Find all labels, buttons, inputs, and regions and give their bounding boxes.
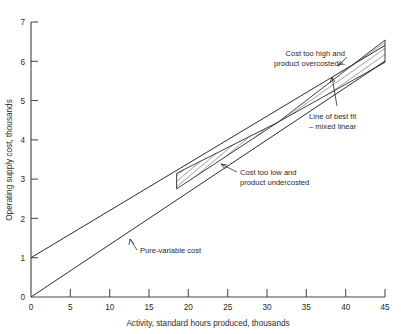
annotation-cost-too-low: Cost too low and product undercosted bbox=[240, 168, 309, 187]
x-tick-45: 45 bbox=[380, 303, 390, 312]
y-tick-4: 4 bbox=[20, 136, 25, 145]
annotation-cost-too-low-line1: Cost too low and bbox=[240, 168, 297, 177]
y-tick-5: 5 bbox=[20, 97, 25, 106]
annotation-best-fit-line2: – mixed linear bbox=[309, 122, 357, 131]
annotation-cost-too-high-line2: product overcosted – bbox=[274, 59, 346, 68]
leader-pure-variable-cost bbox=[129, 239, 137, 250]
x-axis bbox=[31, 289, 385, 297]
annotation-cost-too-low-line2: product undercosted bbox=[240, 178, 309, 187]
x-tick-30: 30 bbox=[262, 303, 272, 312]
y-axis-title: Operating supply cost, thousands bbox=[5, 99, 14, 221]
x-tick-35: 35 bbox=[302, 303, 312, 312]
annotation-best-fit-line1: Line of best fit bbox=[309, 112, 357, 121]
x-axis-title: Activity, standard hours produced, thous… bbox=[126, 319, 289, 328]
y-tick-0: 0 bbox=[20, 293, 25, 302]
x-tick-0: 0 bbox=[29, 303, 34, 312]
y-tick-3: 3 bbox=[20, 175, 25, 184]
annotation-cost-too-high: Cost too high and product overcosted – bbox=[274, 49, 346, 68]
y-tick-1: 1 bbox=[20, 254, 25, 263]
x-tick-25: 25 bbox=[223, 303, 233, 312]
annotation-pure-variable-cost: Pure-variable cost bbox=[140, 246, 202, 255]
x-tick-10: 10 bbox=[105, 303, 115, 312]
annotation-line-of-best-fit: Line of best fit – mixed linear bbox=[309, 112, 357, 131]
chart-canvas: 0 1 2 3 4 5 6 7 0 5 10 15 20 25 30 35 40… bbox=[0, 0, 401, 334]
x-tick-15: 15 bbox=[144, 303, 154, 312]
chart-figure: 0 1 2 3 4 5 6 7 0 5 10 15 20 25 30 35 40… bbox=[0, 0, 401, 334]
x-tick-40: 40 bbox=[341, 303, 351, 312]
y-tick-6: 6 bbox=[20, 58, 25, 67]
y-tick-labels: 0 1 2 3 4 5 6 7 bbox=[20, 18, 25, 302]
annotation-pure-variable-cost-label: Pure-variable cost bbox=[140, 246, 202, 255]
x-tick-5: 5 bbox=[68, 303, 73, 312]
x-tick-labels: 0 5 10 15 20 25 30 35 40 45 bbox=[29, 303, 390, 312]
x-tick-20: 20 bbox=[184, 303, 194, 312]
y-tick-7: 7 bbox=[20, 18, 25, 27]
annotation-cost-too-high-line1: Cost too high and bbox=[285, 49, 345, 58]
y-tick-2: 2 bbox=[20, 215, 25, 224]
series-pure-variable-cost bbox=[31, 61, 385, 297]
